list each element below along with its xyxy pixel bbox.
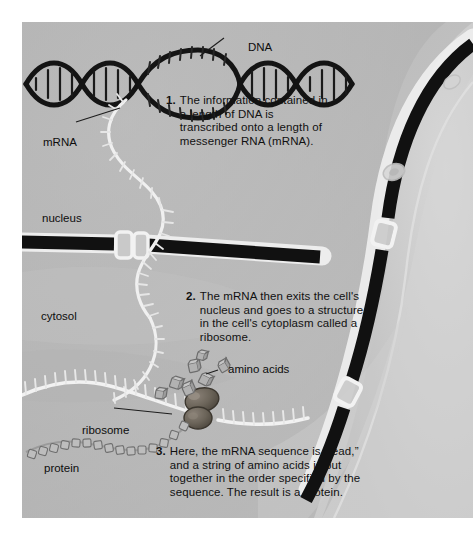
caption-step-2: 2. The mRNA then exits the cell's nucleu… [186, 290, 368, 344]
label-mrna: mRNA [43, 136, 77, 149]
caption-step-3: 3. Here, the mRNA sequence is “read,” an… [156, 445, 362, 499]
step-1-number: 1. [166, 94, 176, 108]
label-amino-acids: amino acids [228, 363, 289, 376]
step-3-number: 3. [156, 445, 166, 459]
step-2-number: 2. [186, 290, 196, 304]
caption-step-1: 1. The information contained in a length… [166, 94, 334, 148]
protein-synthesis-figure: DNA mRNA nucleus cytosol amino acids rib… [0, 0, 473, 537]
step-2-text: The mRNA then exits the cell's nucleus a… [200, 290, 368, 344]
label-protein: protein [44, 462, 79, 475]
step-3-text: Here, the mRNA sequence is “read,” and a… [170, 445, 362, 499]
illustration-plate: DNA mRNA nucleus cytosol amino acids rib… [22, 22, 473, 518]
label-nucleus: nucleus [42, 212, 82, 225]
label-dna: DNA [248, 41, 272, 54]
label-ribosome: ribosome [82, 424, 129, 437]
step-1-text: The information contained in a length of… [180, 94, 334, 148]
label-cytosol: cytosol [41, 310, 77, 323]
